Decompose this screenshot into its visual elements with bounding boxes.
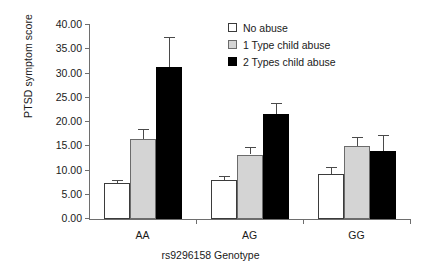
bar xyxy=(263,114,289,219)
error-bar-cap xyxy=(352,137,363,138)
legend-swatch-icon xyxy=(228,57,237,66)
error-bar xyxy=(276,103,277,114)
bar xyxy=(104,183,130,219)
legend-item: No abuse xyxy=(228,19,336,36)
bar xyxy=(237,155,263,220)
y-tick-label: 40.00 xyxy=(56,18,82,30)
legend-item: 1 Type child abuse xyxy=(228,36,336,53)
y-tick-label: 35.00 xyxy=(56,42,82,54)
y-tick-label: 25.00 xyxy=(56,91,82,103)
error-bar-cap xyxy=(245,147,256,148)
x-axis-label: rs9296158 Genotype xyxy=(0,249,421,261)
x-category-label: AG xyxy=(242,229,257,241)
error-bar xyxy=(357,137,358,147)
x-axis-tick xyxy=(303,219,304,224)
y-tick-label: 5.00 xyxy=(62,188,82,200)
error-bar-cap xyxy=(219,176,230,177)
chart-figure: PTSD symptom score 0.005.0010.0015.0020.… xyxy=(0,0,421,271)
bar xyxy=(211,180,237,219)
bar xyxy=(344,146,370,219)
bar xyxy=(370,151,396,219)
error-bar xyxy=(143,129,144,139)
error-bar xyxy=(169,37,170,67)
error-bar-cap xyxy=(164,37,175,38)
y-axis-label: PTSD symptom score xyxy=(22,0,34,156)
y-tick-label: 30.00 xyxy=(56,67,82,79)
legend-label: No abuse xyxy=(243,22,288,34)
error-bar xyxy=(250,147,251,155)
x-axis-line xyxy=(89,219,411,220)
legend-swatch-icon xyxy=(228,23,237,32)
y-tick-label: 0.00 xyxy=(62,212,82,224)
x-category-label: AA xyxy=(135,229,149,241)
bar xyxy=(156,67,182,219)
legend-item: 2 Types child abuse xyxy=(228,53,336,70)
error-bar-cap xyxy=(138,129,149,130)
y-tick-label: 10.00 xyxy=(56,164,82,176)
error-bar xyxy=(331,167,332,174)
y-tick-label: 15.00 xyxy=(56,139,82,151)
legend-label: 2 Types child abuse xyxy=(243,56,336,68)
error-bar-cap xyxy=(112,180,123,181)
x-axis-tick xyxy=(196,219,197,224)
error-bar-cap xyxy=(271,103,282,104)
y-tick-label: 20.00 xyxy=(56,115,82,127)
error-bar-cap xyxy=(378,135,389,136)
legend-swatch-icon xyxy=(228,40,237,49)
x-category-label: GG xyxy=(348,229,364,241)
x-axis-tick xyxy=(410,219,411,224)
bar xyxy=(130,139,156,219)
error-bar-cap xyxy=(326,167,337,168)
chart-legend: No abuse1 Type child abuse2 Types child … xyxy=(228,19,336,70)
error-bar xyxy=(383,135,384,151)
bar xyxy=(318,174,344,219)
legend-label: 1 Type child abuse xyxy=(243,39,330,51)
